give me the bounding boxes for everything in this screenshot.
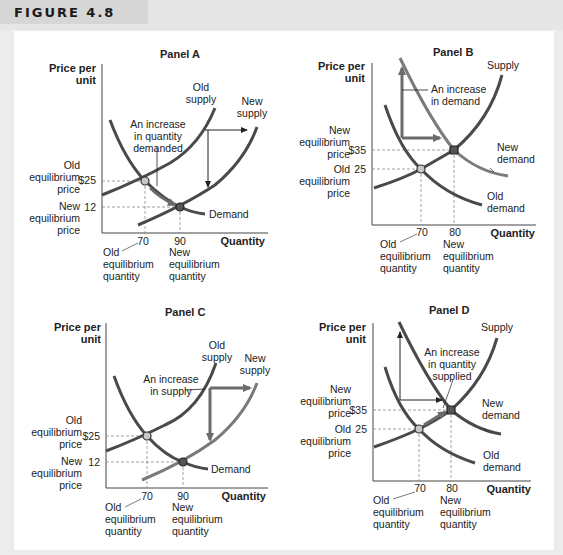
chart-label: in quantity: [134, 130, 183, 142]
chart-label: Quantity: [486, 483, 531, 495]
chart-label: supplied: [432, 370, 471, 382]
chart-label: equilibrium: [169, 258, 220, 270]
chart-label: New: [482, 397, 503, 409]
new-demand-curve: [400, 58, 508, 176]
chart-label: demand: [487, 202, 525, 214]
chart-label: quantity: [440, 518, 478, 530]
new-equilibrium-point: [450, 146, 458, 154]
chart-label: equilibrium: [103, 258, 154, 270]
chart-label: Demand: [211, 463, 251, 475]
y-axis-label: Price per: [49, 62, 97, 74]
chart-label: Price per: [54, 321, 102, 333]
chart-label: New: [169, 246, 190, 258]
chart-label: 80: [446, 482, 458, 494]
chart-label: demand: [482, 409, 520, 421]
chart-label: Price per: [319, 321, 367, 333]
chart-label: $25: [82, 430, 100, 442]
chart-label: 12: [88, 456, 100, 468]
chart-label: Old: [64, 159, 81, 171]
chart-label: quantity: [380, 262, 418, 274]
chart-label: price: [59, 438, 82, 450]
chart-label: supply: [240, 364, 271, 376]
chart-label: price: [59, 479, 82, 491]
chart-label: Old: [487, 190, 504, 202]
chart-label: equilibrium: [29, 171, 80, 183]
chart-label: 70: [416, 226, 428, 238]
chart-label: equilibrium: [380, 250, 431, 262]
chart-label: New: [61, 455, 82, 467]
panel-b: Panel B Price per unit Quantity $35 25 7…: [299, 46, 536, 274]
chart-label: demanded: [133, 142, 183, 154]
chart-label: price: [327, 148, 350, 160]
panel-c: Panel C Price per unit Quantity $25 12 7…: [31, 306, 271, 537]
chart-label: equilibrium: [29, 212, 80, 224]
qty-tick-old: 70: [137, 235, 149, 247]
chart-label: Old: [334, 163, 351, 175]
chart-label: in supply: [150, 385, 192, 397]
chart-label: in quantity: [428, 358, 477, 370]
y-axis-label: unit: [76, 74, 96, 86]
chart-label: New: [244, 352, 265, 364]
chart-line: [393, 492, 415, 499]
chart-label: 25: [354, 163, 366, 175]
old-equilibrium-point: [415, 425, 423, 433]
chart-line: [400, 234, 417, 242]
panel-d: Panel D Price per unit Quantity $35 25 7…: [300, 304, 532, 530]
chart-label: equilibrium: [105, 513, 156, 525]
chart-label: Old: [483, 449, 500, 461]
chart-label: equilibrium: [300, 435, 351, 447]
chart-label: Quantity: [490, 227, 535, 239]
chart-label: An increase: [424, 346, 480, 358]
chart-label: supply: [202, 351, 233, 363]
new-equilibrium-point: [176, 203, 184, 211]
chart-label: Old: [209, 339, 226, 351]
chart-label: equilibrium: [440, 506, 491, 518]
chart-label: Old: [335, 423, 352, 435]
chart-label: equilibrium: [443, 250, 494, 262]
chart-label: New: [497, 141, 518, 153]
chart-label: 70: [141, 490, 153, 502]
new-equilibrium-point: [447, 406, 455, 414]
chart-label: price: [57, 224, 80, 236]
chart-label: An increase: [143, 373, 199, 385]
chart-label: price: [328, 407, 351, 419]
chart-line: [125, 499, 141, 507]
chart-label: equilibrium: [299, 175, 350, 187]
chart-label: New: [172, 501, 193, 513]
chart-label: unit: [345, 72, 365, 84]
movement-along-supply-arrow: [424, 412, 445, 425]
chart-label: New: [329, 124, 350, 136]
chart-label: Quantity: [221, 490, 266, 502]
panel-c-title: Panel C: [165, 306, 205, 318]
chart-label: Supply: [487, 59, 520, 71]
chart-label: Old: [193, 81, 210, 93]
chart-label: equilibrium: [172, 513, 223, 525]
chart-label: equilibrium: [299, 136, 350, 148]
chart-label: price: [328, 447, 351, 459]
x-axis-label: Quantity: [220, 235, 265, 247]
chart-label: New: [330, 383, 351, 395]
chart-label: quantity: [172, 525, 210, 537]
chart-label: Old: [373, 494, 390, 506]
chart-label: unit: [346, 333, 366, 345]
chart-label: quantity: [443, 262, 481, 274]
old-equilibrium-point: [141, 177, 149, 185]
chart-label: quantity: [103, 270, 141, 282]
panel-b-title: Panel B: [433, 46, 473, 58]
chart-label: Old: [103, 246, 120, 258]
chart-label: equilibrium: [300, 395, 351, 407]
chart-label: supply: [186, 93, 217, 105]
chart-label: quantity: [169, 270, 207, 282]
chart-label: 25: [355, 423, 367, 435]
chart-label: supply: [237, 107, 268, 119]
old-equilibrium-point: [417, 165, 425, 173]
chart-label: equilibrium: [373, 506, 424, 518]
chart-label: Demand: [209, 208, 249, 220]
chart-label: equilibrium: [31, 467, 82, 479]
chart-label: $35: [348, 144, 366, 156]
chart-label: unit: [81, 333, 101, 345]
chart-line: [122, 243, 138, 251]
chart-label: quantity: [105, 525, 143, 537]
chart-label: An increase: [431, 83, 487, 95]
chart-label: demand: [497, 153, 535, 165]
